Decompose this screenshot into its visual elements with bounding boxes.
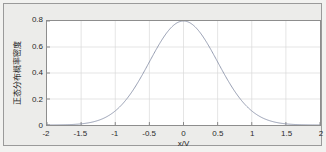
x-axis-label: x/V bbox=[46, 139, 321, 148]
plot-axes bbox=[46, 20, 321, 126]
y-axis-label: 正态分布概率密度 bbox=[13, 41, 23, 105]
plot-svg bbox=[47, 21, 320, 125]
gridlines bbox=[47, 21, 320, 125]
figure-frame: 00.20.40.60.8 -2-1.5-1-0.500.511.52 x/V … bbox=[3, 3, 322, 146]
figure: 00.20.40.60.8 -2-1.5-1-0.500.511.52 x/V … bbox=[0, 0, 326, 152]
x-tick-label: 2 bbox=[301, 130, 326, 138]
y-axis-label-wrapper: 正态分布概率密度 bbox=[12, 20, 24, 126]
